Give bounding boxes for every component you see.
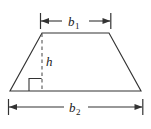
b2-label-subscript: 2 xyxy=(76,107,81,117)
trapezoid-outline xyxy=(10,33,141,91)
b1-label-subscript: 1 xyxy=(75,21,80,31)
b1-left-arrowhead-icon xyxy=(41,18,49,24)
b2-label: b2 xyxy=(69,100,81,117)
trapezoid-diagram-svg: b1 b2 h xyxy=(0,0,151,129)
geometry-figure: b1 b2 h xyxy=(0,0,151,129)
b2-label-symbol: b xyxy=(69,100,76,115)
height-label: h xyxy=(46,54,53,69)
b2-right-arrowhead-icon xyxy=(135,104,143,110)
right-angle-marker-icon xyxy=(29,79,42,92)
b1-label-symbol: b xyxy=(68,14,75,29)
b2-left-arrowhead-icon xyxy=(9,104,17,110)
b1-right-arrowhead-icon xyxy=(103,18,111,24)
b1-label: b1 xyxy=(68,14,80,31)
